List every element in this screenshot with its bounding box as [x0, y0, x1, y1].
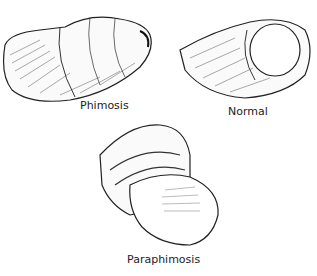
normal-drawing [175, 10, 317, 105]
illustration-phimosis [0, 5, 160, 105]
label-paraphimosis: Paraphimosis [127, 253, 200, 266]
illustration-paraphimosis [90, 115, 230, 250]
paraphimosis-drawing [90, 115, 230, 250]
label-normal: Normal [228, 105, 268, 118]
illustration-normal [175, 10, 317, 105]
phimosis-drawing [0, 5, 160, 105]
label-phimosis: Phimosis [80, 99, 129, 112]
